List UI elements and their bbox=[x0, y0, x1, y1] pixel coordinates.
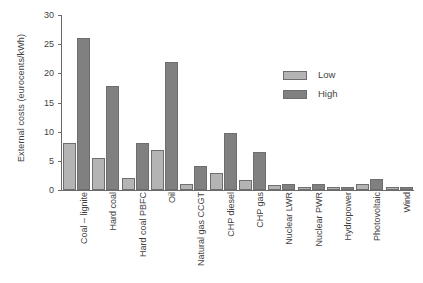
bar-high bbox=[136, 143, 149, 190]
bar-high bbox=[312, 184, 325, 190]
bar-high bbox=[165, 62, 178, 190]
bar-high bbox=[253, 152, 266, 190]
x-axis-labels: Coal – ligniteHard coalHard coal PBFCOil… bbox=[62, 192, 414, 283]
bar-group bbox=[210, 15, 239, 190]
bar-high bbox=[106, 86, 119, 190]
y-tick-label-25: 25 bbox=[44, 40, 54, 49]
x-axis-label: Nuclear LWR bbox=[283, 192, 295, 280]
bar-low bbox=[92, 158, 105, 190]
bar-high bbox=[370, 179, 383, 190]
bar-low bbox=[356, 184, 369, 190]
y-tick-label-0: 0 bbox=[49, 186, 54, 195]
x-axis-label: Coal – lignite bbox=[78, 192, 90, 280]
legend-swatch-low bbox=[283, 71, 307, 80]
legend-item: High bbox=[283, 87, 373, 103]
bar-group bbox=[63, 15, 92, 190]
legend-label: Low bbox=[318, 69, 335, 81]
x-axis-label: Hard coal bbox=[107, 192, 119, 280]
bar-low bbox=[122, 178, 135, 190]
y-tick-label-10: 10 bbox=[44, 128, 54, 137]
bar-chart: External costs (eurocents/kWh) 051015202… bbox=[0, 0, 423, 283]
bar-group bbox=[386, 15, 415, 190]
bar-low bbox=[327, 187, 340, 190]
x-axis-label: Nuclear PWR bbox=[313, 192, 325, 280]
bar-high bbox=[282, 184, 295, 190]
bar-group bbox=[92, 15, 121, 190]
bar-low bbox=[268, 185, 281, 190]
legend-item: Low bbox=[283, 68, 373, 84]
x-axis-label: CHP gas bbox=[254, 192, 266, 280]
bar-group bbox=[151, 15, 180, 190]
y-tick-label-20: 20 bbox=[44, 69, 54, 78]
bar-group bbox=[239, 15, 268, 190]
x-axis-label: Hard coal PBFC bbox=[137, 192, 149, 280]
x-axis-label: Natural gas CCGT bbox=[195, 192, 207, 280]
x-axis-label: Wind bbox=[401, 192, 413, 280]
bar-low bbox=[180, 184, 193, 190]
bar-high bbox=[341, 187, 354, 191]
bar-low bbox=[151, 150, 164, 190]
x-axis-label: Photovoltaic bbox=[371, 192, 383, 280]
bar-high bbox=[224, 133, 237, 190]
bar-low bbox=[63, 143, 76, 190]
bar-low bbox=[210, 173, 223, 190]
y-axis: 051015202530 bbox=[24, 8, 62, 198]
y-tick-label-5: 5 bbox=[49, 157, 54, 166]
bar-low bbox=[386, 187, 399, 190]
x-axis-label: Hydropower bbox=[342, 192, 354, 280]
x-axis-line bbox=[61, 190, 414, 191]
bar-group bbox=[122, 15, 151, 190]
y-tick-label-30: 30 bbox=[44, 11, 54, 20]
legend: LowHigh bbox=[283, 68, 373, 106]
legend-label: High bbox=[318, 88, 338, 100]
bar-low bbox=[239, 180, 252, 190]
legend-swatch-high bbox=[283, 90, 307, 99]
y-axis-line bbox=[61, 15, 62, 191]
bar-high bbox=[77, 38, 90, 190]
bar-group bbox=[180, 15, 209, 190]
bar-high bbox=[194, 166, 207, 190]
bar-high bbox=[400, 187, 413, 191]
x-axis-label: CHP diesel bbox=[225, 192, 237, 280]
y-tick-label-15: 15 bbox=[44, 99, 54, 108]
x-axis-label: Oil bbox=[166, 192, 178, 280]
bar-low bbox=[298, 187, 311, 191]
